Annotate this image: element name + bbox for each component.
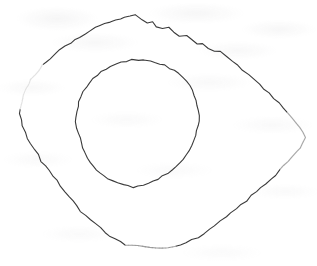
outer-contour-faded-left-segment (20, 65, 42, 108)
nested-contours-figure (0, 0, 317, 266)
inner-contour-path (75, 59, 199, 187)
outer-contour-path (19, 15, 305, 248)
outer-contour-faded-bottom-right-segment (125, 245, 174, 248)
outer-contour-group (19, 15, 305, 248)
scan-page (0, 0, 317, 266)
outer-contour-faded-right-segment (280, 113, 305, 169)
inner-contour-group (75, 59, 199, 187)
